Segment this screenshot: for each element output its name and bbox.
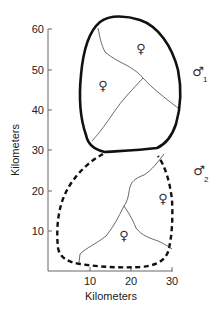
male-1-territory xyxy=(80,17,180,153)
male-1-internal-boundary xyxy=(143,78,178,108)
male-1-label: ♂ 1 xyxy=(192,64,208,84)
y-tick-10: 10 xyxy=(32,225,44,237)
territory-diagram: 60 50 40 30 20 10 Kilometers 10 20 30 Ki… xyxy=(0,0,218,313)
y-axis: 60 50 40 30 20 10 Kilometers xyxy=(9,23,52,271)
y-tick-30: 30 xyxy=(32,144,44,156)
female-symbol: ♀ xyxy=(98,78,108,93)
y-tick-20: 20 xyxy=(32,185,44,197)
x-tick-20: 20 xyxy=(125,275,137,287)
y-tick-60: 60 xyxy=(32,23,44,35)
y-axis-title: Kilometers xyxy=(9,124,21,176)
x-axis-title: Kilometers xyxy=(85,290,137,302)
male-2-territory xyxy=(57,154,172,267)
male-index: 2 xyxy=(204,175,209,184)
female-symbol: ♀ xyxy=(158,191,168,206)
male-index: 1 xyxy=(203,75,208,84)
male-2-internal-boundary xyxy=(79,206,124,263)
x-tick-30: 30 xyxy=(166,275,178,287)
male-1-territory-border xyxy=(80,17,180,153)
male-2-territory-border xyxy=(57,154,172,267)
y-tick-50: 50 xyxy=(32,64,44,76)
x-tick-10: 10 xyxy=(84,275,96,287)
female-symbol: ♀ xyxy=(119,228,129,243)
y-tick-40: 40 xyxy=(32,104,44,116)
female-symbol: ♀ xyxy=(136,41,146,56)
x-axis: 10 20 30 Kilometers xyxy=(48,267,178,302)
male-2-internal-boundary xyxy=(124,206,172,249)
male-2-label: ♂ 2 xyxy=(193,163,209,184)
